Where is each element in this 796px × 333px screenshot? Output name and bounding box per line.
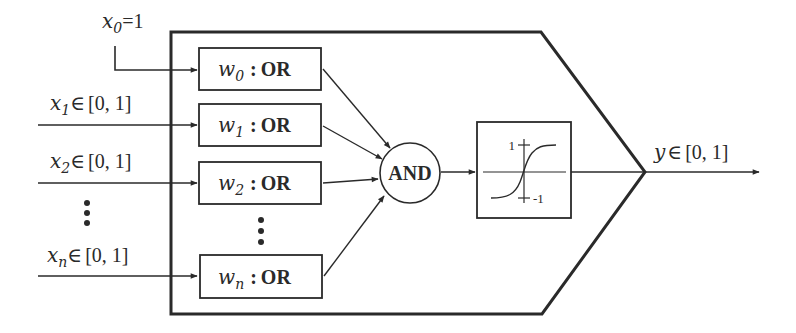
input-x2-rel: ∈: [70, 150, 85, 172]
or-unit-2-weight: w: [218, 171, 235, 195]
or-unit-2-op: OR: [261, 172, 292, 194]
or-unit-n: wn:OR: [200, 255, 322, 298]
or-unit-0: w0:OR: [199, 48, 321, 90]
input-x2-var: x: [50, 149, 61, 173]
edge-or0-and: [323, 69, 390, 148]
svg-text:xn∈[0, 1]: xn∈[0, 1]: [47, 243, 128, 270]
input-x0-rel: =: [122, 10, 133, 32]
svg-text:x1∈[0, 1]: x1∈[0, 1]: [50, 91, 131, 118]
or-ellipsis-icon: [258, 217, 264, 245]
svg-text:w2:OR: w2:OR: [218, 171, 291, 198]
input-xn-domain: [0, 1]: [85, 244, 128, 266]
edge-orn-and: [324, 196, 384, 276]
and-unit: AND: [380, 143, 440, 203]
input-xn-var: x: [47, 243, 58, 267]
or-unit-0-sep: :: [250, 58, 257, 80]
input-xn: xn∈[0, 1]: [38, 243, 197, 276]
svg-text:wn:OR: wn:OR: [218, 265, 291, 292]
activation-unit: 1 -1: [477, 122, 571, 218]
activation-upper-label: 1: [509, 138, 516, 153]
output-domain: [0, 1]: [685, 141, 728, 163]
svg-text:x0=1: x0=1: [102, 9, 143, 36]
input-x2-domain: [0, 1]: [88, 150, 131, 172]
input-x0-domain: 1: [133, 10, 143, 32]
input-x0-sub: 0: [113, 20, 122, 36]
or-unit-2-sub: 2: [234, 182, 244, 198]
input-x1: x1∈[0, 1]: [38, 91, 197, 125]
svg-text:w0:OR: w0:OR: [218, 57, 291, 84]
input-x1-var: x: [50, 91, 61, 115]
or-unit-n-sep: :: [250, 266, 257, 288]
svg-text:x2∈[0, 1]: x2∈[0, 1]: [50, 149, 131, 176]
or-unit-2: w2:OR: [199, 162, 321, 204]
input-x0-var: x: [102, 9, 113, 33]
or-unit-n-weight: w: [218, 265, 235, 289]
and-unit-label: AND: [388, 162, 431, 184]
input-xn-sub: n: [58, 254, 67, 270]
or-unit-0-weight: w: [218, 57, 235, 81]
or-unit-1-weight: w: [218, 113, 235, 137]
input-x0: x0=1: [102, 9, 197, 70]
input-xn-rel: ∈: [67, 244, 82, 266]
or-unit-n-sub: n: [235, 276, 244, 292]
output-label: y∈[0, 1]: [653, 140, 728, 164]
or-unit-n-op: OR: [261, 266, 292, 288]
input-x0-line: [115, 46, 197, 70]
svg-text:w1:OR: w1:OR: [218, 113, 291, 140]
fuzzy-neuron-diagram: x0=1 x1∈[0, 1] x2∈[0, 1] xn∈[0, 1] w0:OR: [0, 0, 796, 333]
input-x1-domain: [0, 1]: [88, 92, 131, 114]
or-unit-1-sub: 1: [235, 124, 244, 140]
or-unit-0-sub: 0: [235, 68, 244, 84]
or-unit-1-op: OR: [261, 114, 292, 136]
input-x2-sub: 2: [60, 160, 70, 176]
input-x1-sub: 1: [61, 102, 70, 118]
edge-or2-and: [323, 179, 378, 183]
or-unit-1-sep: :: [250, 114, 257, 136]
output-rel: ∈: [667, 141, 682, 163]
or-unit-0-op: OR: [261, 58, 292, 80]
output-var: y: [653, 140, 666, 164]
input-x1-rel: ∈: [70, 92, 85, 114]
or-unit-1: w1:OR: [199, 104, 321, 146]
input-x2: x2∈[0, 1]: [38, 149, 197, 183]
or-unit-2-sep: :: [250, 172, 257, 194]
input-ellipsis-icon: [84, 200, 90, 226]
edge-or1-and: [323, 126, 382, 159]
activation-lower-label: -1: [533, 191, 544, 206]
